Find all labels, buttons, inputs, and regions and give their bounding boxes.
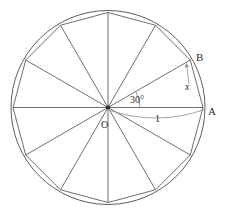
x-leader-arrowhead (185, 63, 189, 67)
center-point-dot (106, 105, 110, 109)
label-radius-length: 1 (155, 114, 160, 124)
radius-line (108, 108, 156, 190)
radius-line (108, 60, 190, 108)
label-central-angle: 30° (130, 95, 144, 105)
label-center-o: O (101, 120, 108, 130)
radius-line (26, 108, 108, 156)
label-side-length-x: x (185, 82, 189, 92)
label-point-a: A (208, 106, 216, 117)
geometry-canvas (0, 0, 225, 218)
label-point-b: B (196, 52, 203, 63)
radius-line (61, 25, 109, 107)
radius-line (26, 60, 108, 108)
geometry-figure: O A B 30° 1 x (0, 0, 225, 218)
radius-line (108, 108, 190, 156)
